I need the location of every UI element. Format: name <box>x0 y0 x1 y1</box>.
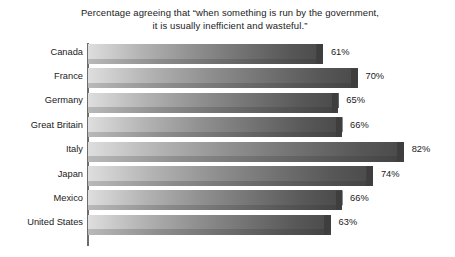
bar-value-label: 82% <box>412 144 431 154</box>
bar-base-shadow <box>88 181 373 187</box>
bar-row: Mexico 66% <box>0 189 455 213</box>
bar-row: Great Britain 66% <box>0 116 455 140</box>
bar-category-label: Germany <box>0 95 83 105</box>
bar-face <box>88 117 342 132</box>
bar-base-shadow <box>88 229 331 235</box>
bar-row: Italy 82% <box>0 141 455 165</box>
bar-value-label: 61% <box>331 47 350 57</box>
bar-face <box>88 93 338 108</box>
plot-area: Canada 61% France 70% Germany <box>0 43 455 248</box>
bar-value-label: 66% <box>350 193 369 203</box>
bar-face <box>88 166 373 181</box>
bar-base-shadow <box>88 83 358 89</box>
bar-category-label: Great Britain <box>0 120 83 130</box>
bar-face <box>88 142 404 157</box>
bar-italy <box>88 142 404 162</box>
bar-row: Japan 74% <box>0 165 455 189</box>
bar-japan <box>88 166 373 186</box>
bar-canada <box>88 44 323 64</box>
bar-base-shadow <box>88 132 342 138</box>
bar-row: Germany 65% <box>0 92 455 116</box>
bar-face <box>88 190 342 205</box>
bar-face <box>88 68 358 83</box>
bar-value-label: 66% <box>350 120 369 130</box>
bar-row: Canada 61% <box>0 43 455 67</box>
bar-chart: Percentage agreeing that “when something… <box>0 0 455 257</box>
bar-mexico <box>88 190 342 210</box>
bar-category-label: Italy <box>0 144 83 154</box>
chart-title-line-2: it is usually inefficient and wasteful.” <box>50 19 410 32</box>
bar-base-shadow <box>88 107 338 113</box>
bar-base-shadow <box>88 205 342 211</box>
bar-row: France 70% <box>0 67 455 91</box>
bar-great-britain <box>88 117 342 137</box>
bar-france <box>88 68 358 88</box>
bar-category-label: Mexico <box>0 193 83 203</box>
bar-face <box>88 215 331 230</box>
bar-category-label: Canada <box>0 47 83 57</box>
bar-category-label: United States <box>0 217 83 227</box>
bar-base-shadow <box>88 156 404 162</box>
bar-row: United States 63% <box>0 214 455 238</box>
bar-value-label: 63% <box>339 217 358 227</box>
bar-category-label: Japan <box>0 169 83 179</box>
bar-value-label: 65% <box>346 95 365 105</box>
bar-face <box>88 44 323 59</box>
chart-title-line-1: Percentage agreeing that “when something… <box>50 6 410 19</box>
bar-category-label: France <box>0 71 83 81</box>
bar-germany <box>88 93 338 113</box>
chart-title: Percentage agreeing that “when something… <box>50 6 410 32</box>
bar-base-shadow <box>88 59 323 65</box>
bar-value-label: 74% <box>381 169 400 179</box>
bar-united-states <box>88 215 331 235</box>
bar-value-label: 70% <box>366 71 385 81</box>
